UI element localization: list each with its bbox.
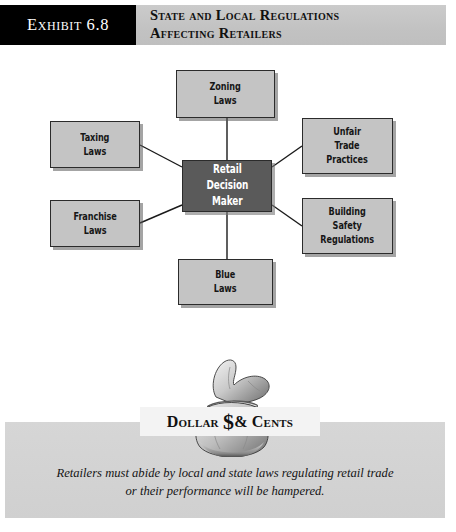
diagram-node-blue-laws-label: Blue Laws xyxy=(214,268,237,296)
dollar-sign-icon: $ xyxy=(223,409,234,434)
diagram-node-blue-laws[interactable]: Blue Laws xyxy=(178,259,273,305)
diagram-node-building-safety-regulations-label: Building Safety Regulations xyxy=(321,205,375,247)
diagram-node-taxing-laws[interactable]: Taxing Laws xyxy=(50,121,140,168)
diagram-node-building-safety-regulations[interactable]: Building Safety Regulations xyxy=(302,198,393,254)
diagram-node-zoning-laws-label: Zoning Laws xyxy=(210,80,241,108)
dollar-and-cents-banner: Dollar $& Cents xyxy=(140,407,320,436)
exhibit-number-label: Exhibit 6.8 xyxy=(27,15,109,35)
dollars-and-cents-caption: Retailers must abide by local and state … xyxy=(20,464,430,501)
banner-post-text: & Cents xyxy=(234,413,293,430)
caption-line-2: or their performance will be hampered. xyxy=(20,482,430,500)
diagram-node-unfair-trade-practices-label: Unfair Trade Practices xyxy=(327,125,368,167)
diagram-node-zoning-laws[interactable]: Zoning Laws xyxy=(176,70,275,118)
diagram-node-franchise-laws[interactable]: Franchise Laws xyxy=(50,200,140,247)
dollar-and-cents-banner-text: Dollar $& Cents xyxy=(167,409,293,435)
diagram-node-taxing-laws-label: Taxing Laws xyxy=(81,131,110,159)
exhibit-title-bar: State and Local Regulations Affecting Re… xyxy=(136,5,446,45)
regulations-diagram: Zoning Laws Taxing Laws Franchise Laws U… xyxy=(0,55,456,320)
exhibit-header: Exhibit 6.8 State and Local Regulations … xyxy=(0,5,446,45)
exhibit-title-line-2: Affecting Retailers xyxy=(150,25,446,43)
diagram-node-franchise-laws-label: Franchise Laws xyxy=(73,210,116,238)
diagram-node-unfair-trade-practices[interactable]: Unfair Trade Practices xyxy=(302,118,393,174)
diagram-node-retail-decision-maker-label: Retail Decision Maker xyxy=(206,162,248,210)
caption-line-1: Retailers must abide by local and state … xyxy=(20,464,430,482)
exhibit-number-tab: Exhibit 6.8 xyxy=(0,5,136,45)
diagram-node-retail-decision-maker[interactable]: Retail Decision Maker xyxy=(182,160,272,212)
banner-pre-text: Dollar xyxy=(167,413,223,430)
exhibit-title-line-1: State and Local Regulations xyxy=(150,7,446,25)
